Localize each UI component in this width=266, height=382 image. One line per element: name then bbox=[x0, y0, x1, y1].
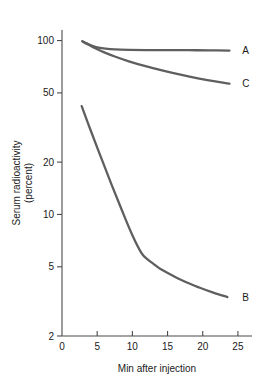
curve-end-labels: ACB bbox=[242, 45, 249, 302]
chart-curves bbox=[82, 41, 230, 297]
curve-label-b: B bbox=[242, 292, 249, 303]
y-tick-label: 10 bbox=[43, 209, 55, 220]
curve-label-a: A bbox=[242, 45, 249, 56]
y-axis-title-line1: Serum radioactivity bbox=[11, 140, 22, 225]
x-axis-ticks: 0510152025 bbox=[59, 331, 244, 352]
chart-axes bbox=[62, 30, 252, 336]
x-tick-label: 5 bbox=[94, 341, 100, 352]
y-tick-label: 20 bbox=[43, 157, 55, 168]
x-tick-label: 10 bbox=[127, 341, 139, 352]
y-axis-ticks: 25102050100 bbox=[37, 35, 62, 341]
y-tick-label: 2 bbox=[48, 331, 54, 342]
serum-radioactivity-line-chart: 25102050100 0510152025 ACB Min after inj… bbox=[0, 0, 266, 382]
x-axis-title: Min after injection bbox=[118, 363, 196, 374]
x-tick-label: 0 bbox=[59, 341, 65, 352]
x-tick-label: 15 bbox=[162, 341, 174, 352]
data-curve-a bbox=[82, 41, 229, 50]
y-tick-label: 50 bbox=[43, 87, 55, 98]
x-tick-label: 20 bbox=[197, 341, 209, 352]
y-axis-title-line2: (percent) bbox=[23, 163, 34, 203]
y-tick-label: 100 bbox=[37, 35, 54, 46]
y-tick-label: 5 bbox=[48, 261, 54, 272]
chart-figure: 25102050100 0510152025 ACB Min after inj… bbox=[0, 0, 266, 382]
axis-titles: Min after injection Serum radioactivity … bbox=[11, 140, 196, 374]
data-curve-b bbox=[82, 106, 228, 297]
curve-label-c: C bbox=[242, 78, 249, 89]
x-tick-label: 25 bbox=[232, 341, 244, 352]
